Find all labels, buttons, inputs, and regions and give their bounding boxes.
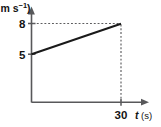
y-tick-label-8: 8 [19,18,26,30]
y-axis-title: m s−1) [1,1,31,14]
x-axis-title: t(s) [135,109,152,121]
guide-lines-group [33,24,121,102]
velocity-time-graph-figure: m s−1) 8 5 30 t(s) [0,0,161,127]
tick-marks-group [28,24,121,106]
x-axis-arrowhead [141,99,149,106]
x-axis-unit: (s) [141,110,152,121]
y-axis-title-text: m s [1,2,19,14]
chart-canvas: m s−1) 8 5 30 t(s) [0,0,161,127]
x-axis-symbol: t [135,109,139,121]
y-axis-exponent: −1 [19,1,27,10]
labels-group: m s−1) 8 5 30 t(s) [1,1,153,121]
y-tick-label-5: 5 [19,49,26,61]
data-series-group [32,24,122,55]
y-axis-close-paren: ) [27,2,31,14]
x-tick-label-30: 30 [115,109,128,121]
axes-group [28,7,149,106]
velocity-line [32,24,122,55]
